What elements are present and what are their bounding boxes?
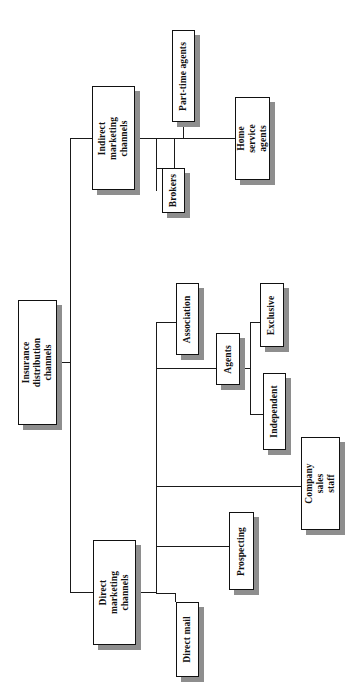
node-label: Association <box>182 295 193 343</box>
node-agents[interactable]: Agents <box>216 333 240 385</box>
node-label: Exclusive <box>267 295 278 334</box>
node-exclusive[interactable]: Exclusive <box>260 283 284 347</box>
node-direct-marketing-channels[interactable]: Direct marketing channels <box>93 540 136 645</box>
node-label: Direct marketing channels <box>98 571 131 614</box>
node-insurance-distribution-channels[interactable]: Insurance distribution channels <box>18 300 57 425</box>
edge-root-spine <box>70 138 71 593</box>
edge-direct-directmail-v <box>175 593 176 602</box>
node-label: Indirect marketing channels <box>97 116 130 159</box>
node-indirect-marketing-channels[interactable]: Indirect marketing channels <box>92 86 135 190</box>
edge-direct-companysales <box>156 486 301 487</box>
node-company-sales-staff[interactable]: Company sales staff <box>301 437 340 530</box>
node-home-service-agents[interactable]: Home service agents <box>235 97 270 180</box>
diagram-canvas: Insurance distribution channels Indirect… <box>0 0 359 699</box>
node-association[interactable]: Association <box>176 283 199 355</box>
node-independent[interactable]: Independent <box>263 373 286 450</box>
node-label: Company sales staff <box>304 463 337 503</box>
node-label: Part-time agents <box>178 42 189 111</box>
node-label: Independent <box>269 385 280 437</box>
edge-root-indirect <box>70 138 93 139</box>
edge-root-direct <box>70 592 94 593</box>
edge-indirect-spine <box>156 138 157 191</box>
node-label: Brokers <box>168 174 179 207</box>
edge-indirect-homeservice <box>156 138 236 139</box>
node-label: Direct mail <box>182 616 193 663</box>
node-label: Insurance distribution channels <box>21 338 54 387</box>
edge-agents-exclusive <box>250 322 260 323</box>
node-label: Prospecting <box>236 527 247 576</box>
edge-indirect-brokers-v <box>174 138 175 168</box>
node-direct-mail[interactable]: Direct mail <box>176 602 199 677</box>
edge-direct-directmail <box>156 593 176 594</box>
node-label: Home service agents <box>236 122 269 155</box>
node-label: Agents <box>223 345 234 374</box>
node-part-time-agents[interactable]: Part-time agents <box>172 30 195 122</box>
node-brokers[interactable]: Brokers <box>162 168 185 213</box>
edge-agents-spine <box>250 322 251 414</box>
edge-agents-independent <box>250 414 263 415</box>
edge-direct-prospecting <box>156 546 229 547</box>
edge-direct-association <box>156 322 176 323</box>
edge-direct-agents <box>156 368 216 369</box>
edge-direct-spine <box>156 322 157 593</box>
node-prospecting[interactable]: Prospecting <box>229 512 254 590</box>
